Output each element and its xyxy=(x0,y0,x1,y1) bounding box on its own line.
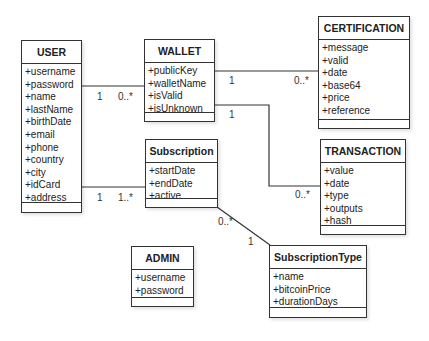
operations-compartment xyxy=(270,307,366,317)
class-name: ADMIN xyxy=(132,247,193,270)
attribute: +price xyxy=(322,92,406,105)
attribute: +birthDate xyxy=(25,116,78,129)
operations-compartment xyxy=(22,202,81,212)
attribute: +username xyxy=(25,66,78,79)
attribute: +publicKey xyxy=(148,65,211,78)
operations-compartment xyxy=(145,112,214,121)
mult-wallet-certification-to: 0..* xyxy=(294,75,309,86)
mult-subscription-type-from: 0..* xyxy=(218,216,233,227)
attribute: +valid xyxy=(322,55,406,68)
mult-user-subscription-to: 1..* xyxy=(118,192,133,203)
attribute: +base64 xyxy=(322,80,406,93)
operations-compartment xyxy=(321,225,405,234)
mult-user-subscription-from: 1 xyxy=(97,192,103,203)
class-subscription-type[interactable]: SubscriptionType +name +bitcoinPrice +du… xyxy=(269,245,367,318)
attribute: +name xyxy=(273,271,363,284)
attribute-list: +username +password xyxy=(132,270,193,299)
attribute: +date xyxy=(322,67,406,80)
attribute: +reference xyxy=(322,105,406,118)
attribute: +walletName xyxy=(148,78,211,91)
attribute: +date xyxy=(324,178,402,191)
attribute: +name xyxy=(25,91,78,104)
mult-user-wallet-from: 1 xyxy=(97,91,103,102)
attribute: +idCard xyxy=(25,179,78,192)
attribute: +isValid xyxy=(148,90,211,103)
attribute: +email xyxy=(25,129,78,142)
operations-compartment xyxy=(319,119,409,128)
operations-compartment xyxy=(132,297,193,306)
attribute: +startDate xyxy=(149,165,214,178)
attribute-list: +message +valid +date +base64 +price +re… xyxy=(319,40,409,120)
class-transaction[interactable]: TRANSACTION +value +date +type +outputs … xyxy=(320,139,406,235)
class-subscription[interactable]: Subscription +startDate +endDate +active xyxy=(145,139,218,208)
mult-wallet-transaction-to: 0..* xyxy=(295,189,310,200)
attribute-list: +username +password +name +lastName +bir… xyxy=(22,64,81,207)
class-name: SubscriptionType xyxy=(270,246,366,269)
attribute: +phone xyxy=(25,142,78,155)
attribute: +value xyxy=(324,165,402,178)
attribute: +lastName xyxy=(25,104,78,117)
attribute: +password xyxy=(135,285,190,298)
class-name: Subscription xyxy=(146,140,217,163)
class-name: USER xyxy=(22,41,81,64)
attribute: +message xyxy=(322,42,406,55)
class-user[interactable]: USER +username +password +name +lastName… xyxy=(21,40,82,213)
class-certification[interactable]: CERTIFICATION +message +valid +date +bas… xyxy=(318,16,410,129)
attribute: +city xyxy=(25,167,78,180)
attribute: +endDate xyxy=(149,178,214,191)
class-admin[interactable]: ADMIN +username +password xyxy=(131,246,194,307)
attribute-list: +publicKey +walletName +isValid +isUnkno… xyxy=(145,63,214,117)
class-name: TRANSACTION xyxy=(321,140,405,163)
operations-compartment xyxy=(146,198,217,207)
attribute: +country xyxy=(25,154,78,167)
attribute-list: +name +bitcoinPrice +durationDays xyxy=(270,269,366,311)
attribute-list: +value +date +type +outputs +hash xyxy=(321,163,405,230)
attribute: +outputs xyxy=(324,203,402,216)
class-wallet[interactable]: WALLET +publicKey +walletName +isValid +… xyxy=(144,39,215,122)
mult-subscription-type-to: 1 xyxy=(248,236,254,247)
attribute: +type xyxy=(324,190,402,203)
class-name: WALLET xyxy=(145,40,214,63)
mult-wallet-certification-from: 1 xyxy=(229,75,235,86)
attribute: +username xyxy=(135,272,190,285)
mult-wallet-transaction-from: 1 xyxy=(229,109,235,120)
class-name: CERTIFICATION xyxy=(319,17,409,40)
mult-user-wallet-to: 0..* xyxy=(118,91,133,102)
attribute: +bitcoinPrice xyxy=(273,284,363,297)
attribute: +password xyxy=(25,79,78,92)
